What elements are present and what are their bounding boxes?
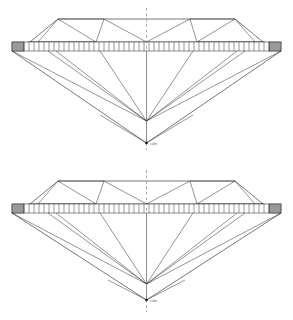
crown-left-bevel-bottom — [30, 181, 58, 204]
pavilion-facet-r3-bottom — [147, 213, 238, 284]
culet-label-top: culet — [150, 142, 157, 146]
pavilion-outline-left-bottom — [12, 213, 147, 300]
bezel-facet-r2-top — [197, 19, 235, 42]
crown-right-bevel-bottom — [235, 181, 263, 204]
pavilion-facet-l-outer-top — [12, 51, 147, 121]
culet-point-top — [145, 142, 148, 145]
pavilion-facet-l-outer-bottom — [12, 213, 147, 284]
upper-girdle-l-link-bottom — [96, 181, 104, 204]
upper-girdle-r3-top — [235, 19, 255, 42]
bezel-facet-l2-bottom — [58, 181, 96, 204]
diagram-canvas: culet — [0, 0, 293, 320]
diamond-diagram-svg: culet — [0, 0, 293, 320]
pavilion-facet-r4-bottom — [147, 213, 194, 284]
pavilion-outline-right-top — [147, 51, 282, 143]
upper-girdle-l3-bottom — [38, 181, 58, 204]
pavilion-outline-left-top — [12, 51, 147, 143]
pavilion-facet-r-outer-top — [147, 51, 282, 121]
pavilion-facet-l4-top — [100, 51, 147, 121]
pavilion-facet-r-outer-bottom — [147, 213, 282, 284]
bezel-facet-l1-top — [104, 19, 147, 42]
culet-facet-left-top — [100, 115, 147, 143]
bezel-facet-r2-bottom — [197, 181, 235, 204]
bezel-facet-r1-bottom — [147, 181, 191, 204]
pavilion-facet-l3-top — [56, 51, 147, 121]
culet-label-bottom: culet — [150, 299, 157, 303]
diamond-bottom: culet — [12, 170, 281, 312]
diamond-top: culet — [12, 8, 281, 150]
girdle-end-left-top — [12, 42, 24, 51]
bezel-facet-l1-bottom — [104, 181, 147, 204]
pavilion-facet-r4-top — [147, 51, 194, 121]
upper-girdle-r-link-bottom — [190, 181, 197, 204]
culet-facet-left-bottom — [108, 280, 147, 300]
girdle-end-right-bottom — [269, 204, 281, 213]
pavilion-facet-l2-bottom — [48, 213, 147, 284]
upper-girdle-l3-top — [38, 19, 58, 42]
culet-point-bottom — [145, 299, 148, 302]
upper-girdle-r3-bottom — [235, 181, 255, 204]
crown-right-bevel-top — [235, 19, 263, 42]
upper-girdle-r-link-top — [190, 19, 197, 42]
pavilion-facet-r3-top — [147, 51, 238, 121]
culet-facet-right-bottom — [147, 280, 186, 300]
pavilion-facet-l3-bottom — [56, 213, 147, 284]
bezel-facet-l2-top — [58, 19, 96, 42]
upper-girdle-l-link-top — [96, 19, 104, 42]
pavilion-outline-right-bottom — [147, 213, 282, 300]
pavilion-facet-l4-bottom — [100, 213, 147, 284]
pavilion-facet-r2-bottom — [147, 213, 246, 284]
girdle-end-left-bottom — [12, 204, 24, 213]
girdle-end-right-top — [269, 42, 281, 51]
crown-left-bevel-top — [30, 19, 58, 42]
culet-facet-right-top — [147, 115, 194, 143]
bezel-facet-r1-top — [147, 19, 191, 42]
